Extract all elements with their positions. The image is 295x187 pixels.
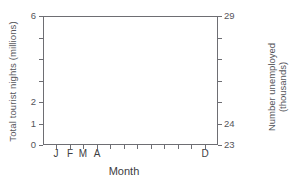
y-axis-tick-right <box>218 102 222 103</box>
y-axis-tick-right <box>218 16 222 17</box>
y-axis-tick-label-left: 0 <box>31 139 36 150</box>
y-axis-tick-label-right: 29 <box>224 10 235 21</box>
x-axis-tick-label: M <box>76 148 90 159</box>
y-axis-tick-right <box>218 59 222 60</box>
x-axis-tick-label: F <box>63 148 77 159</box>
y-axis-tick-left <box>39 124 43 125</box>
chart-container: Total tourist nights (millions) Number u… <box>0 0 295 187</box>
x-axis-tick-label: A <box>90 148 104 159</box>
x-axis-title: Month <box>0 165 248 177</box>
x-axis-tick <box>151 145 152 149</box>
y-axis-tick-label-left: 1 <box>31 118 36 129</box>
y-axis-tick-left <box>39 102 43 103</box>
x-axis-tick <box>110 145 111 149</box>
left-axis-title: Total tourist nights (millions) <box>7 17 18 147</box>
y-axis-tick-label-left: 6 <box>31 10 36 21</box>
y-axis-tick-right <box>218 145 222 146</box>
right-axis-title: Number unemployed (thousands) <box>266 22 290 152</box>
x-axis-tick-label: D <box>198 148 212 159</box>
y-axis-tick-right <box>218 38 222 39</box>
y-axis-tick-left <box>39 81 43 82</box>
x-axis-tick <box>124 145 125 149</box>
x-axis-tick <box>191 145 192 149</box>
y-axis-tick-left <box>39 59 43 60</box>
x-axis-tick <box>164 145 165 149</box>
y-axis-tick-label-right: 24 <box>224 118 235 129</box>
plot-area <box>43 16 218 145</box>
y-axis-tick-left <box>39 38 43 39</box>
x-axis-tick-label: J <box>49 148 63 159</box>
y-axis-tick-label-right: 23 <box>224 139 235 150</box>
x-axis-tick <box>137 145 138 149</box>
right-axis-title-line-1: Number unemployed <box>266 22 277 152</box>
y-axis-tick-left <box>39 145 43 146</box>
x-axis-tick <box>178 145 179 149</box>
right-axis-title-line-2: (thousands) <box>277 22 288 152</box>
y-axis-tick-right <box>218 81 222 82</box>
y-axis-tick-label-left: 2 <box>31 96 36 107</box>
y-axis-tick-right <box>218 124 222 125</box>
y-axis-tick-left <box>39 16 43 17</box>
